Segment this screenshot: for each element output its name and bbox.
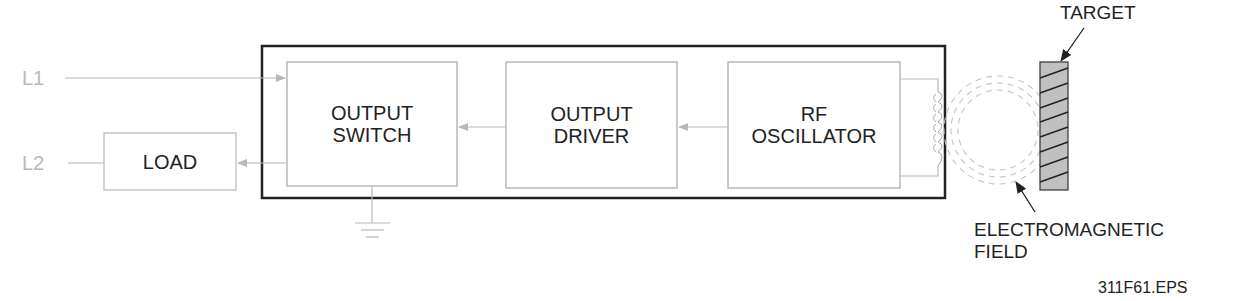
electromagnetic-field-icon — [944, 76, 1052, 184]
output-driver-label: OUTPUT DRIVER — [506, 103, 677, 147]
coil-lead-bottom — [900, 166, 938, 176]
field-label-line2: FIELD — [974, 241, 1164, 263]
output-driver-line1: OUTPUT — [506, 103, 677, 125]
coil-icon — [934, 92, 943, 166]
output-switch-line2: SWITCH — [287, 124, 457, 146]
target-callout-arrow — [1061, 28, 1084, 61]
target-block — [1040, 62, 1068, 190]
coil-lead-top — [900, 79, 938, 92]
ground-icon — [355, 186, 390, 237]
rf-oscillator-line2: OSCILLATOR — [728, 125, 900, 147]
field-label-line1: ELECTROMAGNETIC — [974, 219, 1164, 241]
figure-id: 311F61.EPS — [1098, 277, 1188, 299]
target-label: TARGET — [1060, 2, 1136, 24]
load-label: LOAD — [104, 151, 236, 173]
l1-label: L1 — [22, 67, 44, 89]
output-switch-line1: OUTPUT — [287, 102, 457, 124]
rf-oscillator-label: RF OSCILLATOR — [728, 103, 900, 147]
output-switch-label: OUTPUT SWITCH — [287, 102, 457, 146]
field-callout-arrow — [1016, 182, 1035, 212]
field-label: ELECTROMAGNETIC FIELD — [974, 219, 1164, 263]
output-driver-line2: DRIVER — [506, 125, 677, 147]
l2-label: L2 — [22, 152, 44, 174]
rf-oscillator-line1: RF — [728, 103, 900, 125]
